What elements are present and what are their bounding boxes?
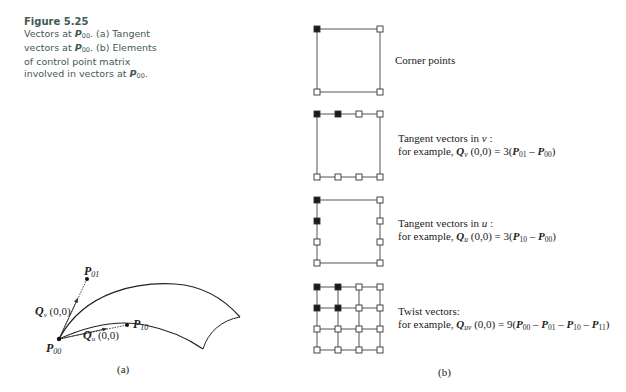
label-p10: P10 bbox=[133, 317, 148, 332]
control-point-highlighted bbox=[314, 197, 320, 203]
label-p00: P00 bbox=[46, 341, 61, 356]
control-point bbox=[377, 26, 383, 32]
control-point bbox=[314, 89, 320, 95]
control-point bbox=[314, 239, 320, 245]
control-point-highlighted bbox=[314, 305, 320, 311]
control-point-highlighted bbox=[335, 111, 341, 117]
control-point bbox=[377, 239, 383, 245]
desc-twist: Twist vectors: for example, Quv (0,0) = … bbox=[398, 305, 609, 334]
label-qv: Qv (0,0) bbox=[35, 304, 71, 319]
panel-b-label: (b) bbox=[438, 366, 451, 379]
grid-tangent-u bbox=[314, 197, 383, 266]
control-point-grids bbox=[314, 26, 383, 353]
control-point bbox=[377, 284, 383, 290]
point-p10 bbox=[125, 323, 129, 327]
grid-corner bbox=[314, 26, 383, 95]
control-point bbox=[377, 197, 383, 203]
control-point bbox=[335, 347, 341, 353]
control-point bbox=[335, 326, 341, 332]
control-point bbox=[335, 174, 341, 180]
panel-a-label: (a) bbox=[117, 363, 130, 376]
patch-lower-edge bbox=[59, 323, 203, 349]
control-point bbox=[356, 284, 362, 290]
desc-tangent-v: Tangent vectors in v : for example, Qv (… bbox=[398, 132, 555, 161]
label-p01: P01 bbox=[84, 264, 99, 279]
control-point-highlighted bbox=[335, 305, 341, 311]
control-point bbox=[377, 305, 383, 311]
control-point-highlighted bbox=[335, 284, 341, 290]
control-point bbox=[314, 260, 320, 266]
control-point bbox=[377, 347, 383, 353]
control-point bbox=[377, 326, 383, 332]
control-point-highlighted bbox=[314, 284, 320, 290]
control-point bbox=[377, 174, 383, 180]
control-point-highlighted bbox=[314, 111, 320, 117]
patch-right-edge bbox=[203, 317, 240, 349]
control-point bbox=[356, 326, 362, 332]
grid-twist bbox=[314, 284, 383, 353]
point-p00 bbox=[57, 337, 61, 341]
desc-corner-points: Corner points bbox=[395, 54, 455, 67]
control-point bbox=[377, 260, 383, 266]
control-point bbox=[314, 174, 320, 180]
control-point bbox=[377, 89, 383, 95]
control-point bbox=[314, 326, 320, 332]
grid-tangent-v bbox=[314, 111, 383, 180]
control-point bbox=[314, 347, 320, 353]
control-point bbox=[356, 305, 362, 311]
label-qu: Qu (0,0) bbox=[83, 328, 119, 343]
control-point bbox=[377, 218, 383, 224]
control-point bbox=[377, 111, 383, 117]
control-point bbox=[356, 111, 362, 117]
control-point-highlighted bbox=[314, 218, 320, 224]
control-point bbox=[356, 174, 362, 180]
control-point bbox=[356, 347, 362, 353]
desc-tangent-u: Tangent vectors in u : for example, Qu (… bbox=[398, 217, 556, 246]
control-point-highlighted bbox=[314, 26, 320, 32]
